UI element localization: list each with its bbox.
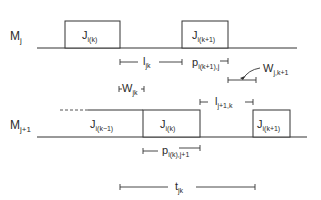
interval-w-jk: Wjk <box>119 82 144 97</box>
job-box-i-k1 <box>182 21 228 48</box>
interval-l-j1-k: lj+1,k <box>200 95 253 110</box>
interval-p-k-j1: pi(k),j+1 <box>143 144 200 159</box>
machine-j-label: Mj <box>10 29 22 45</box>
w-j-k1-label: Wj,k+1 <box>263 62 288 77</box>
p-k-j1-label: pi(k),j+1 <box>162 144 189 159</box>
job-box-i-k-m2 <box>143 110 200 137</box>
machine-j1-label: Mj+1 <box>10 118 31 134</box>
interval-p-next-j: pi(k+1),j <box>192 56 228 71</box>
l-jk-label: ljk <box>143 55 151 70</box>
machine-j-row: Mj Ji(k) Ji(k+1) <box>10 21 297 48</box>
machine-j1-row: Mj+1 Ji(k−1) Ji(k) Ji(k+1) <box>10 110 307 137</box>
job-label-i-k-minus-1: Ji(k−1) <box>90 118 113 133</box>
w-jk-label: Wjk <box>122 82 138 97</box>
interval-l-jk: ljk <box>120 55 182 70</box>
interval-t-jk: tjk <box>120 180 255 195</box>
t-jk-label: tjk <box>175 180 184 195</box>
p-next-j-label: pi(k+1),j <box>192 56 220 71</box>
job-box-i-k <box>65 21 120 48</box>
schedule-diagram: Mj Ji(k) Ji(k+1) ljk pi(k+1),j Wj,k+1 Wj… <box>0 0 321 200</box>
interval-w-j-k1: Wj,k+1 <box>228 62 288 83</box>
l-j1-k-label: lj+1,k <box>215 95 233 110</box>
leader-arrow-icon <box>243 68 260 79</box>
